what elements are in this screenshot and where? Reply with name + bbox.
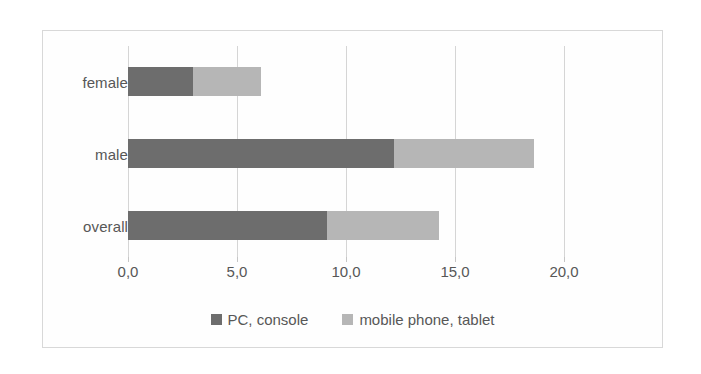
legend-swatch-icon-mobile-phone-tablet (342, 314, 353, 325)
category-label-overall: overall (50, 218, 128, 235)
legend-label-mobile-phone-tablet: mobile phone, tablet (359, 311, 494, 328)
bar-segment-overall-pc-console[interactable] (128, 211, 327, 240)
chart-frame: female male overall 0 (42, 30, 663, 348)
gridline-20 (564, 46, 565, 259)
tick-label-10: 10,0 (331, 263, 360, 280)
value-axis-tick-labels: 0,0 5,0 10,0 15,0 20,0 (128, 263, 607, 287)
plot-area (128, 46, 607, 259)
chart-legend: PC, console mobile phone, tablet (43, 311, 662, 328)
bar-segment-female-mobile-phone-tablet[interactable] (193, 67, 261, 96)
legend-item-mobile-phone-tablet[interactable]: mobile phone, tablet (342, 311, 494, 328)
bar-segment-female-pc-console[interactable] (128, 67, 193, 96)
category-label-male: male (50, 146, 128, 163)
tick-label-15: 15,0 (440, 263, 469, 280)
legend-label-pc-console: PC, console (228, 311, 309, 328)
category-label-female: female (50, 74, 128, 91)
tick-label-20: 20,0 (549, 263, 578, 280)
tick-label-0: 0,0 (118, 263, 139, 280)
legend-swatch-icon-pc-console (211, 314, 222, 325)
tick-label-5: 5,0 (227, 263, 248, 280)
bar-segment-overall-mobile-phone-tablet[interactable] (327, 211, 439, 240)
legend-item-pc-console[interactable]: PC, console (211, 311, 309, 328)
bar-segment-male-pc-console[interactable] (128, 139, 394, 168)
bar-segment-male-mobile-phone-tablet[interactable] (394, 139, 534, 168)
category-axis-labels: female male overall (43, 46, 128, 259)
